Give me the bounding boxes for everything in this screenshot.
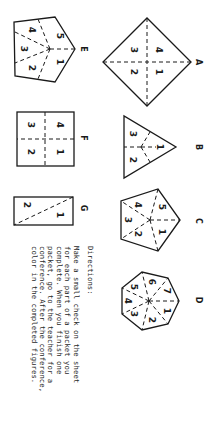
figure-f-section-2[interactable]: 2 — [26, 149, 36, 155]
figure-f-section-4[interactable]: 4 — [55, 122, 65, 128]
figure-b-label: B — [194, 144, 203, 150]
figure-b-section-1[interactable]: 1 — [155, 144, 165, 150]
directions-block: Directions: Make a small check on the sh… — [29, 246, 94, 416]
figure-d-label: D — [194, 297, 203, 304]
figure-g[interactable]: G 1 2 — [14, 197, 88, 225]
figure-b[interactable]: B 1 2 3 — [124, 116, 203, 178]
figure-e-section-5[interactable]: 5 — [55, 33, 65, 39]
figure-f-label: F — [79, 135, 88, 140]
figure-b-section-2[interactable]: 2 — [128, 157, 138, 163]
figure-c[interactable]: C 1 2 3 4 5 — [121, 189, 203, 251]
figure-e-section-3[interactable]: 3 — [19, 46, 29, 52]
figure-f-section-1[interactable]: 1 — [55, 149, 65, 155]
directions-line: Make a small check on the sheet — [71, 246, 79, 416]
figure-a[interactable]: A 1 2 3 4 — [103, 18, 203, 106]
figure-a-section-3[interactable]: 3 — [129, 47, 139, 53]
figure-c-section-2[interactable]: 2 — [133, 231, 143, 237]
figure-c-section-5[interactable]: 5 — [157, 204, 167, 210]
figure-a-section-4[interactable]: 4 — [154, 47, 164, 53]
figure-d-section-5[interactable]: 5 — [129, 284, 139, 290]
figure-c-section-1[interactable]: 1 — [157, 229, 167, 235]
worksheet-page: A 1 2 3 4 B 1 2 3 C — [0, 0, 220, 429]
figure-c-label: C — [194, 218, 203, 224]
figure-d[interactable]: D 1 2 3 4 5 6 7 — [122, 272, 203, 330]
figure-f-section-3[interactable]: 3 — [26, 122, 36, 128]
figure-d-section-3[interactable]: 3 — [129, 311, 139, 317]
figure-e-section-2[interactable]: 2 — [27, 65, 37, 71]
figure-c-section-3[interactable]: 3 — [123, 217, 133, 223]
figure-e-label: E — [79, 46, 88, 51]
figure-e-section-1[interactable]: 1 — [55, 59, 65, 65]
figure-e[interactable]: E 1 2 3 4 5 — [14, 17, 88, 82]
figure-a-label: A — [194, 59, 203, 66]
figure-d-section-4[interactable]: 4 — [123, 298, 133, 304]
directions-line: conference. After the conference, — [38, 246, 46, 416]
figure-g-section-1[interactable]: 1 — [55, 212, 65, 218]
directions-line: for each part of a packet you — [63, 246, 71, 416]
directions-title: Directions: — [86, 246, 94, 416]
figure-b-section-3[interactable]: 3 — [128, 131, 138, 137]
figure-g-label: G — [79, 205, 88, 212]
figure-f[interactable]: F 1 2 3 4 — [17, 112, 88, 166]
figure-d-section-7[interactable]: 7 — [162, 288, 172, 294]
figure-a-section-1[interactable]: 1 — [154, 69, 164, 75]
figure-e-section-4[interactable]: 4 — [27, 27, 37, 33]
directions-line: packet, go to the teacher for a — [46, 246, 54, 416]
figure-a-section-2[interactable]: 2 — [129, 69, 139, 75]
directions-line: color in the completed figures. — [29, 246, 37, 416]
figure-d-section-1[interactable]: 1 — [162, 308, 172, 314]
directions-line: complete. When you finish one — [54, 246, 62, 416]
figure-d-section-2[interactable]: 2 — [147, 317, 157, 323]
figure-c-section-4[interactable]: 4 — [133, 202, 143, 208]
figure-g-section-2[interactable]: 2 — [22, 202, 32, 208]
figure-d-section-6[interactable]: 6 — [147, 279, 157, 285]
